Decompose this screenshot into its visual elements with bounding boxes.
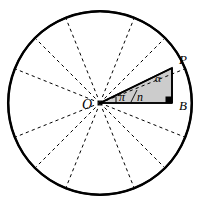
inward-arc-5 — [8, 69, 15, 137]
label-center-O: O — [82, 97, 92, 112]
dashed-radius-7 — [35, 103, 100, 168]
inward-arc-2 — [66, 11, 134, 18]
label-pi-numerator: π — [119, 90, 126, 104]
dashed-radius-10 — [100, 103, 165, 168]
label-angle-alpha: α — [155, 72, 161, 84]
label-n-denominator: n — [137, 90, 143, 104]
inward-arc-7 — [35, 168, 66, 188]
geometry-diagram: O P B α π n — [0, 0, 207, 210]
dashed-radius-9 — [100, 103, 134, 188]
label-foot-B: B — [179, 98, 187, 113]
inward-arc-3 — [35, 18, 66, 38]
inward-arc-9 — [134, 168, 165, 188]
inward-arc-6 — [15, 137, 35, 168]
geometry-figure: O P B α π n — [0, 0, 207, 210]
inward-arc-10 — [165, 137, 185, 168]
inward-arc-1 — [134, 18, 165, 38]
inward-arc-8 — [66, 188, 134, 195]
dashed-radius-3 — [66, 18, 100, 103]
right-angle-marker-icon — [166, 97, 173, 104]
dashed-radius-11 — [100, 103, 185, 137]
label-vertex-P: P — [178, 52, 187, 67]
inward-arc-4 — [15, 38, 35, 69]
dashed-radius-8 — [66, 103, 100, 188]
dashed-radius-4 — [35, 38, 100, 103]
